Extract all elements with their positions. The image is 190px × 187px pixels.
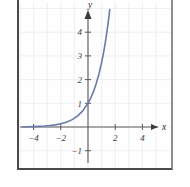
exponential-curve (23, 10, 110, 127)
x-tick-label: −4 (28, 133, 39, 143)
y-tick-label: 3 (77, 51, 83, 61)
x-axis-label: x (161, 122, 167, 132)
y-tick-label: −1 (71, 146, 82, 156)
x-axis-arrow-icon (151, 124, 158, 130)
x-tick-label: 2 (113, 133, 118, 143)
y-tick-label: 4 (78, 27, 83, 37)
y-tick-label: 1 (78, 99, 83, 109)
y-axis-label: y (87, 0, 93, 10)
y-tick-label: 2 (78, 75, 83, 85)
graph-canvas: x y −4−224 4321−1 (0, 0, 190, 187)
y-axis-arrow-icon (85, 10, 92, 19)
x-tick-label: −2 (56, 133, 67, 143)
x-tick-label: 4 (140, 133, 145, 143)
figure-container: x y −4−224 4321−1 (0, 0, 190, 187)
